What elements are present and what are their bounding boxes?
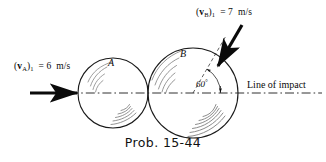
velocity-a-label: (vA)1 = 6 m/s (14, 62, 70, 72)
velocity-b-units: m/s (238, 7, 252, 17)
ball-b-letter: B (180, 49, 186, 59)
velocity-a-value: 6 (46, 61, 51, 71)
velocity-arrow-b (218, 25, 242, 66)
velocity-a-state: 1 (30, 65, 33, 72)
velocity-b-label: (vB)1 = 7 m/s (196, 8, 252, 18)
velocity-b-subscript: B (204, 11, 208, 18)
ball-b-shading (152, 51, 181, 94)
ball-a-shading-lower (111, 105, 136, 125)
ball-a-letter: A (108, 58, 114, 68)
figure-caption: Prob. 15-44 (0, 135, 326, 150)
angle-arc (207, 69, 221, 93)
angle-value: 60 (196, 79, 205, 89)
velocity-a-units: m/s (56, 61, 70, 71)
line-of-impact-label: Line of impact (247, 80, 306, 90)
velocity-b-value: 7 (228, 7, 233, 17)
degree-symbol: ° (205, 78, 208, 85)
ball-b-shading-lower (188, 105, 225, 137)
angle-label: 60° (196, 80, 208, 89)
velocity-b-state: 1 (212, 11, 215, 18)
velocity-a-subscript: A (22, 65, 27, 72)
